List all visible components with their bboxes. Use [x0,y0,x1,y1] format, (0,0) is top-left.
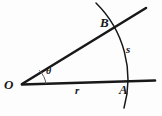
arc-length-label: s [126,44,130,55]
horizontal-ray [22,81,155,85]
figure-canvas [0,0,162,116]
angle-label-theta: θ [46,66,51,76]
radius-label: r [75,85,79,96]
point-label-o: O [4,78,13,91]
point-label-b: B [100,16,109,29]
geometry-figure: O A B r s θ [0,0,162,116]
point-label-a: A [119,83,128,96]
